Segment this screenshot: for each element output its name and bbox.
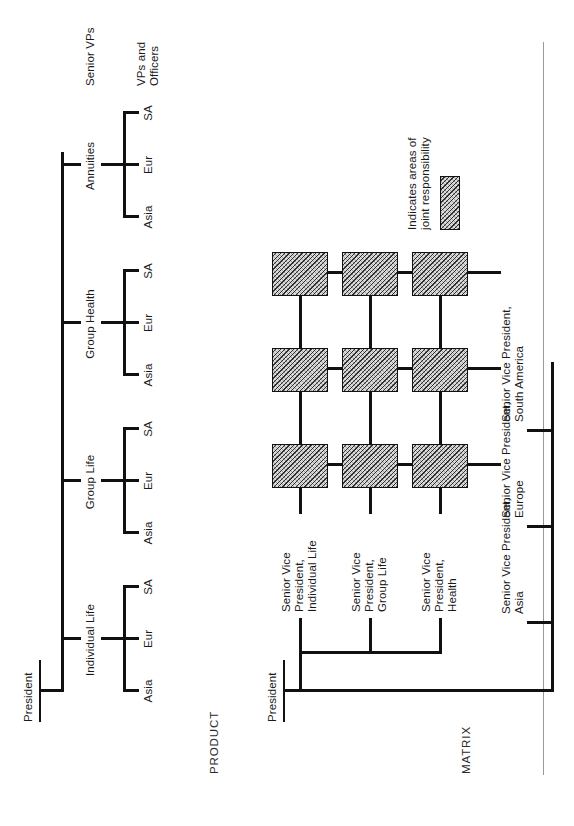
product-region-label: Asia [142,508,155,558]
product-division-stem [101,321,125,324]
matrix-product-col-label-line1: Senior Vice [280,492,293,612]
legend-text-line1: Indicates areas of [406,40,419,230]
product-region-drop [123,427,139,430]
product-region-label: SA [142,88,155,138]
product-region-drop [123,269,139,272]
product-org-chart: PRODUCT President Individual Life Asia E… [0,0,260,826]
product-region-label: SA [142,246,155,296]
matrix-region-row-riser [467,271,501,274]
product-region-drop [123,111,139,114]
matrix-region-row-riser [467,367,501,370]
product-division-drop [61,321,81,324]
matrix-joint-responsibility-box [342,252,398,296]
matrix-joint-responsibility-box [272,444,328,488]
matrix-product-col-connector [299,488,302,514]
matrix-joint-responsibility-box [412,348,468,392]
product-division-drop [61,163,81,166]
product-region-drop [123,479,139,482]
product-level-annotation-vps-line1: VPs and [135,6,148,86]
legend-block: Indicates areas of joint responsibility [418,30,488,230]
product-region-label: Eur [142,140,155,190]
scanned-page: PRODUCT President Individual Life Asia E… [0,0,574,826]
product-level-annotation-vps-line2: Officers [148,6,161,86]
matrix-product-col-connector [369,488,372,514]
product-division-stem [101,637,125,640]
product-region-label: Eur [142,298,155,348]
matrix-product-branch-arm [299,618,302,654]
matrix-product-col-label-line1: Senior Vice [350,492,363,612]
product-division-label: Individual Life [84,585,97,695]
matrix-joint-responsibility-box [342,348,398,392]
matrix-region-spine [299,689,554,692]
matrix-product-col-connector [439,488,442,514]
matrix-region-row-riser [467,463,501,466]
product-region-drop [123,637,139,640]
matrix-joint-responsibility-box [412,252,468,296]
product-region-drop [123,531,139,534]
matrix-joint-responsibility-box [342,444,398,488]
product-division-stem [101,479,125,482]
matrix-product-col-label-line3: Health [446,492,459,612]
matrix-product-col-label-line3: Individual Life [306,492,319,612]
product-section-label: PRODUCT [208,711,220,774]
matrix-region-row-drop [527,621,553,624]
product-region-label: SA [142,562,155,612]
matrix-product-col-label-line3: Group Life [376,492,389,612]
matrix-section-label: MATRIX [460,726,472,774]
product-region-label: Asia [142,350,155,400]
product-division-stem [101,163,125,166]
figure-canvas: PRODUCT President Individual Life Asia E… [0,0,574,826]
product-region-drop [123,163,139,166]
matrix-region-row-drop [527,525,553,528]
product-level-annotation-senior-vps: Senior VPs [84,6,97,86]
product-region-label: Eur [142,614,155,664]
product-region-label: Asia [142,666,155,716]
product-region-drop [123,373,139,376]
matrix-region-row-label-line1: Senior Vice President, [500,262,513,422]
matrix-product-col-label-line1: Senior Vice [420,492,433,612]
matrix-joint-responsibility-box [272,252,328,296]
product-division-drop [61,479,81,482]
product-division-label: Group Life [84,427,97,537]
product-division-label: Annuities [84,111,97,221]
product-region-label: Eur [142,456,155,506]
product-root-stem [39,689,63,692]
product-region-drop [123,585,139,588]
matrix-joint-responsibility-box [272,348,328,392]
legend-text-line2: joint responsibility [419,40,432,230]
matrix-product-branch-arm [369,618,372,654]
product-region-drop [123,321,139,324]
product-region-label: Asia [142,192,155,242]
product-division-drop [61,637,81,640]
matrix-root-label: President [266,652,279,722]
product-region-drop [123,689,139,692]
product-division-label: Group Health [84,269,97,379]
matrix-main-bus [299,652,302,692]
matrix-region-row-drop [527,429,553,432]
product-region-drop [123,215,139,218]
matrix-region-row-label-line2: South America [513,262,526,422]
product-root-label: President [22,652,35,722]
product-region-label: SA [142,404,155,454]
legend-swatch-hatched [440,176,460,230]
matrix-joint-responsibility-box [412,444,468,488]
product-division-bus [61,152,64,692]
matrix-product-branch-arm [439,618,442,654]
